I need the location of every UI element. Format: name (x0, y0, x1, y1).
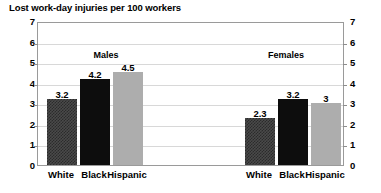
tickmark-right-2 (343, 126, 347, 127)
cat-label-males-hispanic: Hispanic (107, 169, 147, 181)
tickmark-right-3 (343, 105, 347, 106)
y-tick-left-5: 5 (13, 57, 35, 68)
y-tick-right-4: 4 (350, 78, 372, 89)
tickmark-right-4 (343, 85, 347, 86)
value-label-females-black: 3.2 (276, 89, 310, 100)
value-label-males-white: 3.2 (45, 89, 79, 100)
bar-chart: Lost work-day injuries per 100 workers 7… (0, 0, 381, 193)
y-tick-right-1: 1 (350, 139, 372, 150)
y-tick-right-7: 7 (350, 16, 372, 27)
y-axis-right: 7 6 5 4 3 2 1 0 (350, 22, 372, 166)
y-tick-right-6: 6 (350, 37, 372, 48)
y-tick-left-6: 6 (13, 37, 35, 48)
y-tick-left-7: 7 (13, 16, 35, 27)
tickmark-left-3 (34, 105, 38, 106)
tickmark-left-5 (34, 64, 38, 65)
value-label-males-black: 4.2 (78, 69, 112, 80)
bar-males-hispanic[interactable] (113, 72, 143, 165)
gridline-5 (38, 64, 343, 65)
value-label-females-hispanic: 3 (309, 93, 343, 104)
bar-females-black[interactable] (278, 99, 308, 165)
value-label-males-hispanic: 4.5 (111, 62, 145, 73)
y-tick-left-2: 2 (13, 119, 35, 130)
tickmark-left-4 (34, 85, 38, 86)
chart-title: Lost work-day injuries per 100 workers (9, 2, 181, 13)
bar-males-white[interactable] (47, 99, 77, 165)
y-tick-right-3: 3 (350, 98, 372, 109)
bar-females-hispanic[interactable] (311, 103, 341, 165)
cat-label-females-hispanic: Hispanic (305, 169, 345, 181)
tickmark-left-1 (34, 146, 38, 147)
group-header-females: Females (251, 50, 321, 61)
y-tick-left-1: 1 (13, 139, 35, 150)
y-tick-right-2: 2 (350, 119, 372, 130)
y-axis-left: 7 6 5 4 3 2 1 0 (13, 22, 35, 166)
y-tick-left-0: 0 (13, 160, 35, 171)
y-tick-left-4: 4 (13, 78, 35, 89)
bar-females-white[interactable] (245, 118, 275, 165)
group-header-males: Males (71, 50, 141, 61)
tickmark-right-5 (343, 64, 347, 65)
y-tick-left-3: 3 (13, 98, 35, 109)
y-tick-right-0: 0 (350, 160, 372, 171)
bar-males-black[interactable] (80, 79, 110, 165)
value-label-females-white: 2.3 (243, 108, 277, 119)
tickmark-right-6 (343, 44, 347, 45)
tickmark-left-6 (34, 44, 38, 45)
y-tick-right-5: 5 (350, 57, 372, 68)
tickmark-right-1 (343, 146, 347, 147)
plot-area: Males Females 3.2 4.2 4.5 2.3 3.2 3 (37, 22, 344, 166)
gridline-6 (38, 44, 343, 45)
tickmark-left-2 (34, 126, 38, 127)
